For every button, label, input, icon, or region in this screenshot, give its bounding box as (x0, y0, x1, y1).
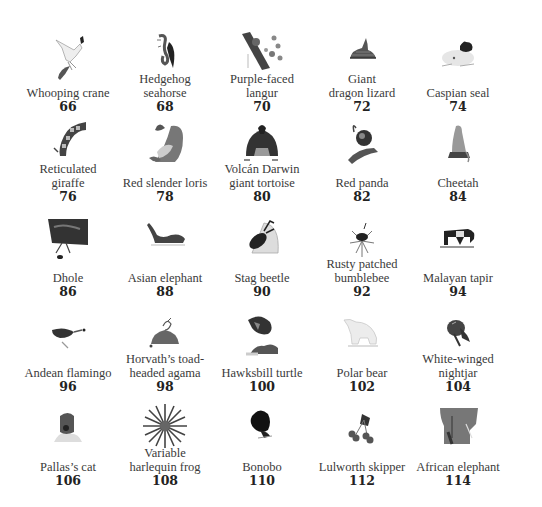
species-name: Asian elephant (128, 272, 203, 286)
gallery-item-hedgehog-seahorse[interactable]: Hedgehog seahorse 68 (113, 28, 217, 114)
species-name: Giant dragon lizard (329, 73, 395, 100)
species-number: 102 (349, 380, 375, 394)
gallery-item-dhole[interactable]: Dhole 86 (16, 213, 120, 299)
species-name: Red panda (335, 177, 388, 191)
hawksbill-turtle-image (234, 308, 290, 364)
species-name: Whooping crane (27, 87, 110, 101)
stag-beetle-image (234, 213, 290, 269)
african-elephant-image (430, 402, 486, 458)
polar-bear-image (334, 308, 390, 364)
species-number: 92 (353, 285, 370, 299)
species-name: Bonobo (242, 461, 282, 475)
species-number: 96 (59, 380, 76, 394)
species-number: 74 (449, 100, 466, 114)
species-name: African elephant (416, 461, 500, 475)
species-number: 88 (156, 285, 173, 299)
species-number: 108 (152, 474, 178, 488)
gallery-item-asian-elephant[interactable]: Asian elephant 88 (113, 213, 217, 299)
species-name: Stag beetle (234, 272, 289, 286)
species-name: White-winged nightjar (422, 353, 494, 380)
gallery-item-stag-beetle[interactable]: Stag beetle 90 (210, 213, 314, 299)
gallery-item-purple-faced-langur[interactable]: Purple-faced langur 70 (210, 28, 314, 114)
species-name: Polar bear (336, 367, 387, 381)
gallery-item-reticulated-giraffe[interactable]: Reticulated giraffe 76 (16, 118, 120, 204)
species-number: 98 (156, 380, 173, 394)
gallery-item-caspian-seal[interactable]: Caspian seal 74 (406, 28, 510, 114)
species-name: Red slender loris (123, 177, 208, 191)
cheetah-image (430, 118, 486, 174)
species-number: 110 (249, 474, 275, 488)
gallery-item-andean-flamingo[interactable]: Andean flamingo 96 (16, 308, 120, 394)
species-number: 72 (353, 100, 370, 114)
species-number: 70 (253, 100, 270, 114)
whooping-crane-image (40, 28, 96, 84)
species-number: 80 (253, 190, 270, 204)
species-name: Lulworth skipper (319, 461, 405, 475)
red-panda-image (334, 118, 390, 174)
species-number: 66 (59, 100, 76, 114)
gallery-item-african-elephant[interactable]: African elephant 114 (406, 402, 510, 488)
species-name: Volcán Darwin giant tortoise (224, 163, 299, 190)
species-name: Reticulated giraffe (40, 163, 97, 190)
gallery-item-malayan-tapir[interactable]: Malayan tapir 94 (406, 213, 510, 299)
species-name: Andean flamingo (24, 367, 111, 381)
species-number: 86 (59, 285, 76, 299)
species-name: Malayan tapir (423, 272, 493, 286)
gallery-item-harlequin-frog[interactable]: Variable harlequin frog 108 (113, 402, 217, 488)
species-name: Hawksbill turtle (222, 367, 303, 381)
species-name: Rusty patched bumblebee (326, 258, 397, 285)
gallery-item-red-panda[interactable]: Red panda 82 (310, 118, 414, 204)
species-number: 78 (156, 190, 173, 204)
malayan-tapir-image (430, 213, 486, 269)
dhole-image (40, 213, 96, 269)
species-name: Horvath’s toad- headed agama (126, 353, 204, 380)
species-number: 68 (156, 100, 173, 114)
gallery-item-toad-headed-agama[interactable]: Horvath’s toad- headed agama 98 (113, 308, 217, 394)
species-name: Dhole (53, 272, 84, 286)
andean-flamingo-image (40, 308, 96, 364)
species-number: 84 (449, 190, 466, 204)
gallery-item-giant-dragon-lizard[interactable]: Giant dragon lizard 72 (310, 28, 414, 114)
species-number: 106 (55, 474, 81, 488)
species-number: 114 (445, 474, 471, 488)
species-name: Variable harlequin frog (129, 447, 200, 474)
species-name: Purple-faced langur (230, 73, 294, 100)
gallery-item-red-slender-loris[interactable]: Red slender loris 78 (113, 118, 217, 204)
gallery-item-bonobo[interactable]: Bonobo 110 (210, 402, 314, 488)
gallery-item-cheetah[interactable]: Cheetah 84 (406, 118, 510, 204)
species-name: Caspian seal (427, 87, 490, 101)
gallery-item-polar-bear[interactable]: Polar bear 102 (310, 308, 414, 394)
species-number: 76 (59, 190, 76, 204)
red-slender-loris-image (137, 118, 193, 174)
species-gallery: Whooping crane 66 Hedgehog seahorse 68 P… (0, 0, 542, 507)
species-number: 104 (445, 380, 471, 394)
gallery-item-hawksbill-turtle[interactable]: Hawksbill turtle 100 (210, 308, 314, 394)
species-number: 94 (449, 285, 466, 299)
species-number: 90 (253, 285, 270, 299)
species-number: 82 (353, 190, 370, 204)
gallery-item-whooping-crane[interactable]: Whooping crane 66 (16, 28, 120, 114)
gallery-item-lulworth-skipper[interactable]: Lulworth skipper 112 (310, 402, 414, 488)
bonobo-image (234, 402, 290, 458)
asian-elephant-image (137, 213, 193, 269)
gallery-item-white-winged-nightjar[interactable]: White-winged nightjar 104 (406, 308, 510, 394)
pallas-cat-image (40, 402, 96, 458)
species-number: 100 (249, 380, 275, 394)
gallery-item-pallas-cat[interactable]: Pallas’s cat 106 (16, 402, 120, 488)
species-name: Hedgehog seahorse (139, 73, 190, 100)
caspian-seal-image (430, 28, 486, 84)
lulworth-skipper-image (334, 402, 390, 458)
species-name: Cheetah (438, 177, 479, 191)
gallery-item-rusty-patched-bumblebee[interactable]: Rusty patched bumblebee 92 (310, 213, 414, 299)
gallery-item-giant-tortoise[interactable]: Volcán Darwin giant tortoise 80 (210, 118, 314, 204)
species-number: 112 (349, 474, 375, 488)
species-name: Pallas’s cat (40, 461, 96, 475)
